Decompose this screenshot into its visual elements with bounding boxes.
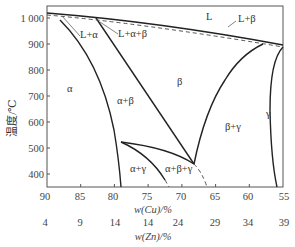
beta-betagamma-boundary: [194, 44, 263, 164]
x2-tick-label: 34: [243, 217, 254, 228]
x2-tick-label: 29: [210, 217, 221, 228]
y-tick-label: 800: [28, 65, 44, 76]
x-tick-label: 80: [108, 191, 119, 202]
y-tick-label: 600: [28, 117, 44, 128]
alpha-gamma-boundary: [121, 142, 165, 180]
x2-axis-label: w(Zn)/%: [135, 231, 172, 243]
x-tick-label: 90: [40, 191, 51, 202]
region-label-gamma: γ: [265, 108, 271, 119]
y-tick-label: 500: [28, 143, 44, 154]
phase-diagram: 1 000 900 800 700 600 500 400 温度/℃ 90 85…: [0, 0, 295, 247]
region-label-alpha-gamma: α+γ: [130, 163, 146, 174]
alpha-solvus-curve: [60, 20, 121, 187]
alpha-gamma-dashed-extension: [165, 180, 169, 187]
beta-gamma-dashed-extension: [194, 164, 207, 187]
gamma-solvus-curve: [270, 47, 283, 187]
region-label-l-alpha-beta: L+α+β: [118, 28, 147, 39]
x-tick-label: 70: [176, 191, 187, 202]
x-tick-label: 55: [279, 191, 290, 202]
region-label-alpha: α: [67, 83, 73, 94]
region-label-l-alpha: L+α: [80, 29, 98, 40]
y-tick-label: 1 000: [20, 13, 44, 24]
alpha-beta-lower-boundary: [121, 142, 194, 164]
x-axis-label: w(Cu)/%: [134, 204, 172, 216]
x-tick-label: 85: [75, 191, 86, 202]
x2-tick-label: 14: [143, 217, 154, 228]
region-label-beta: β: [177, 76, 182, 87]
x-tick-label: 75: [142, 191, 153, 202]
x2-tick-label: 4: [42, 217, 48, 228]
region-label-l: L: [206, 11, 212, 22]
x2-tick-label: 39: [279, 217, 290, 228]
leader-line-l-beta: [228, 21, 236, 27]
region-label-beta-gamma: β+γ: [225, 121, 241, 132]
alpha-beta-beta-boundary: [96, 18, 194, 164]
region-label-alpha-beta-gamma: α+β+γ: [165, 163, 193, 174]
y-tick-label: 400: [28, 169, 44, 180]
x-tick-label: 65: [210, 191, 221, 202]
y-axis-label: 温度/℃: [5, 99, 18, 136]
x2-tick-label: 14: [110, 217, 121, 228]
y-tick-label: 700: [28, 91, 44, 102]
x2-tick-label: 24: [173, 217, 184, 228]
region-label-alpha-beta: α+β: [117, 95, 134, 106]
region-label-l-beta: L+β: [238, 13, 256, 24]
x-tick-label: 60: [243, 191, 254, 202]
x2-tick-label: 9: [77, 217, 82, 228]
y-tick-label: 900: [28, 39, 44, 50]
